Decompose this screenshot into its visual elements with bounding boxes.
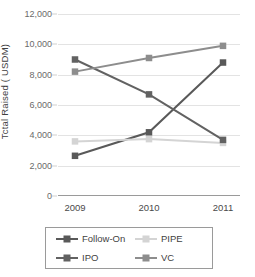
legend-label: PIPE xyxy=(161,233,183,244)
data-point-marker xyxy=(220,137,227,144)
series-vc xyxy=(72,43,227,75)
legend-item-ipo[interactable]: IPO xyxy=(50,252,129,263)
legend: Follow-OnPIPEIPOVC xyxy=(45,227,213,269)
y-axis-tick-mark xyxy=(52,105,57,106)
x-axis-tick-label: 2011 xyxy=(213,203,233,213)
data-point-marker xyxy=(146,55,153,62)
series-layer xyxy=(58,14,240,196)
legend-label: VC xyxy=(161,252,174,263)
legend-label: Follow-On xyxy=(82,233,125,244)
y-axis-title-text: Tctal Raised ( USDM) xyxy=(0,43,11,138)
y-axis-tick-label: 2,000 xyxy=(10,161,52,170)
plot-area xyxy=(58,14,240,196)
data-point-marker xyxy=(220,43,227,50)
series-follow-on xyxy=(72,59,227,159)
data-point-marker xyxy=(220,59,227,66)
y-axis-tick-mark xyxy=(52,196,57,197)
x-axis-tick-label: 2010 xyxy=(138,203,159,213)
data-point-marker xyxy=(146,136,153,143)
y-axis-title: Tctal Raised ( USDM) xyxy=(0,0,12,182)
legend-item-pipe[interactable]: PIPE xyxy=(129,233,208,244)
series-pipe xyxy=(72,136,227,146)
y-axis-tick-mark xyxy=(52,14,57,15)
series-line xyxy=(75,60,223,140)
legend-item-vc[interactable]: VC xyxy=(129,252,208,263)
legend-marker xyxy=(143,235,150,242)
data-point-marker xyxy=(146,91,153,98)
y-axis-tick-label: 8,000 xyxy=(10,70,52,79)
line-chart: Tctal Raised ( USDM) 02,0004,0006,0008,0… xyxy=(0,0,255,277)
legend-swatch-icon xyxy=(56,234,78,244)
y-axis-tick-mark xyxy=(52,135,57,136)
y-axis-tick-label: 4,000 xyxy=(10,131,52,140)
y-axis-tick-mark xyxy=(52,165,57,166)
data-point-marker xyxy=(72,56,79,63)
y-axis-tick-label: 12,000 xyxy=(10,10,52,19)
legend-marker xyxy=(64,235,71,242)
data-point-marker xyxy=(72,138,79,145)
legend-swatch-icon xyxy=(135,234,157,244)
data-point-marker xyxy=(72,153,79,160)
y-axis-tick-mark xyxy=(52,74,57,75)
legend-marker xyxy=(143,254,150,261)
x-axis-tick-label: 2009 xyxy=(64,203,85,213)
legend-marker xyxy=(64,254,71,261)
data-point-marker xyxy=(72,68,79,75)
y-axis-tick-label: 0 xyxy=(10,192,52,201)
legend-item-follow-on[interactable]: Follow-On xyxy=(50,233,129,244)
y-axis-tick-label: 10,000 xyxy=(10,40,52,49)
legend-label: IPO xyxy=(82,252,98,263)
y-axis-tick-label: 6,000 xyxy=(10,101,52,110)
legend-swatch-icon xyxy=(135,253,157,263)
y-axis-tick-mark xyxy=(52,44,57,45)
data-point-marker xyxy=(146,129,153,136)
legend-swatch-icon xyxy=(56,253,78,263)
